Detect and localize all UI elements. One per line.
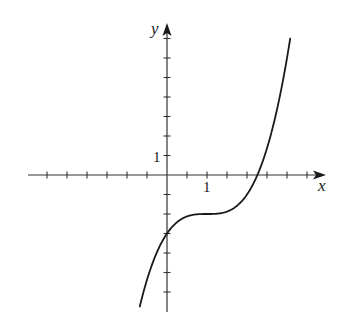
cubic-function-graph: x y 1 1 [0,0,343,331]
y-axis [163,23,172,312]
y-axis-label: y [149,19,159,38]
cubic-curve [140,39,290,307]
x-tick-label-1: 1 [203,179,211,195]
x-axis [28,171,326,180]
y-tick-label-1: 1 [153,149,161,165]
x-axis-label: x [317,176,326,195]
